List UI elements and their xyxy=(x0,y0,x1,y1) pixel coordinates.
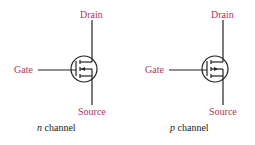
p-caption-text: channel xyxy=(175,122,209,133)
n-drain-label: Drain xyxy=(80,10,103,20)
n-gate-label: Gate xyxy=(14,65,33,75)
n-caption-text: channel xyxy=(42,122,76,133)
n-source-label: Source xyxy=(78,107,106,117)
p-channel-caption: p channel xyxy=(170,123,209,133)
p-source-label: Source xyxy=(209,107,237,117)
p-gate-label: Gate xyxy=(145,65,164,75)
n-channel-caption: n channel xyxy=(37,123,76,133)
p-drain-label: Drain xyxy=(211,10,234,20)
